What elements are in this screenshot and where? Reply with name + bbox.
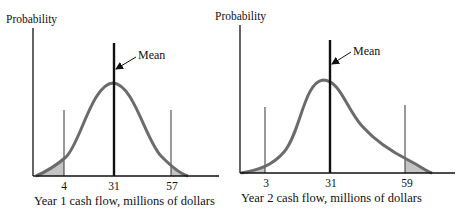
year1-tick-31: 31 [108,180,120,192]
year1-probability-curve [36,83,188,176]
charts-canvas: Mean Probability 4 31 57 Year 1 cash flo… [0,0,461,211]
year1-y-axis-label: Probability [6,13,57,26]
year1-mean-label: Mean [138,48,165,62]
year1-tick-4: 4 [61,180,67,192]
year1-mean-arrow [116,57,136,69]
year1-x-axis-label: Year 1 cash flow, millions of dollars [34,194,215,208]
year2-tick-3: 3 [263,177,269,189]
year2-chart: Mean Probability 3 31 59 Year 2 cash flo… [215,10,455,205]
year1-chart: Mean Probability 4 31 57 Year 1 cash flo… [6,13,219,208]
year2-probability-curve [241,80,432,173]
year2-tick-59: 59 [401,177,413,189]
year1-tick-57: 57 [166,180,178,192]
year2-tick-31: 31 [325,177,337,189]
year2-x-axis-label: Year 2 cash flow, millions of dollars [241,191,422,205]
year2-mean-label: Mean [353,44,380,58]
year2-mean-arrow [332,52,351,64]
year2-y-axis-label: Probability [215,10,266,23]
